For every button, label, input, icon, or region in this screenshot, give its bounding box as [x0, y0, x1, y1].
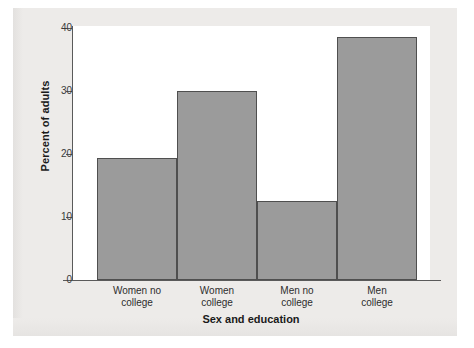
x-axis-line: [63, 280, 441, 281]
bar-women-no-college: [97, 158, 177, 280]
bar-women-college: [177, 91, 257, 280]
bar-men-college: [337, 37, 417, 280]
bar-men-no-college: [257, 201, 337, 280]
y-tick-label-10: 10: [48, 212, 72, 222]
y-tick-label-40: 40: [48, 23, 72, 33]
panel-left-shading: [13, 8, 23, 336]
bar-series: [97, 26, 418, 280]
y-tick-label-20: 20: [48, 149, 72, 159]
y-axis-title: Percent of adults: [39, 41, 51, 211]
x-tick-label-line2: college: [329, 297, 425, 309]
x-tick-label-men-college: Men college: [329, 285, 425, 309]
y-axis-line: [72, 26, 73, 280]
y-tick-label-30: 30: [48, 86, 72, 96]
y-tick-label-0: 0: [48, 275, 72, 285]
x-axis-title: Sex and education: [72, 313, 430, 325]
x-tick-label-line1: Men: [329, 285, 425, 297]
bar-chart-screenshot: 40 30 20 10 0 Percent of adults Women no…: [0, 0, 474, 348]
